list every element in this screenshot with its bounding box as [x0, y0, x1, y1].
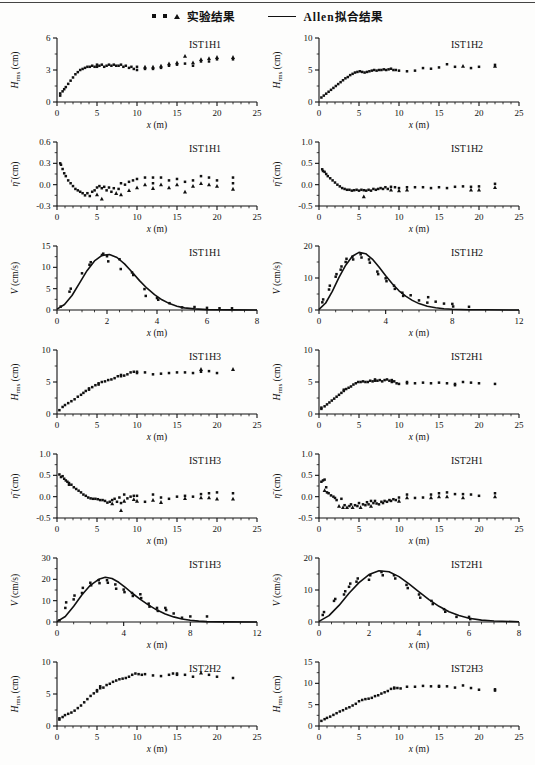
svg-text:0.0: 0.0 [39, 180, 51, 190]
y-axis-title: η̄ (cm) [10, 473, 21, 498]
svg-text:1.0: 1.0 [39, 449, 51, 459]
svg-text:5: 5 [357, 108, 362, 118]
svg-text:0.5: 0.5 [39, 470, 51, 480]
x-axis-title: x (m) [408, 224, 429, 235]
svg-text:-0.5: -0.5 [298, 513, 313, 523]
svg-text:20: 20 [213, 420, 223, 430]
svg-text:0: 0 [317, 524, 322, 534]
svg-text:5: 5 [308, 65, 313, 75]
axes [53, 350, 257, 418]
x-axis-title: x (m) [146, 640, 167, 651]
svg-text:0: 0 [55, 212, 60, 222]
svg-text:30: 30 [42, 553, 52, 563]
svg-text:3: 3 [46, 65, 51, 75]
svg-text:-0.5: -0.5 [36, 513, 51, 523]
svg-text:10: 10 [133, 212, 143, 222]
svg-text:25: 25 [253, 108, 263, 118]
x-axis-title: x (m) [408, 120, 429, 131]
panel-title: IST1H1 [189, 247, 221, 258]
svg-text:8: 8 [517, 628, 522, 638]
svg-text:0: 0 [317, 316, 322, 326]
y-axis-title: V (cm/s) [272, 574, 283, 606]
axes [53, 662, 257, 730]
scatter-points [60, 252, 234, 309]
svg-text:10: 10 [304, 273, 314, 283]
svg-text:0: 0 [55, 316, 60, 326]
svg-text:8: 8 [255, 316, 260, 326]
panel-title: IST2H1 [451, 351, 483, 362]
svg-text:0.5: 0.5 [301, 158, 313, 168]
axes [315, 454, 519, 522]
experiment-marker-square-icon [152, 14, 156, 18]
scatter-points [59, 54, 235, 97]
y-axis-title: V (cm/s) [10, 262, 21, 294]
y-axis-title: V (cm/s) [272, 262, 283, 294]
svg-text:25: 25 [253, 524, 263, 534]
y-axis-title: Hrms (cm) [10, 364, 21, 402]
axes [53, 246, 257, 314]
x-axis-title: x (m) [146, 536, 167, 547]
svg-text:0: 0 [46, 97, 51, 107]
svg-text:5: 5 [357, 524, 362, 534]
svg-text:4: 4 [417, 628, 422, 638]
svg-text:15: 15 [435, 732, 445, 742]
svg-text:-0.3: -0.3 [36, 201, 51, 211]
y-axis-title: η̄ (cm) [10, 161, 21, 186]
svg-text:8: 8 [450, 316, 455, 326]
svg-text:10: 10 [42, 657, 52, 667]
axis-labels: 05101520250510x (m)Hrms (cm)IST1H3 [10, 345, 262, 443]
axes [53, 38, 257, 106]
svg-text:12: 12 [515, 316, 524, 326]
svg-text:0.0: 0.0 [301, 492, 313, 502]
svg-text:20: 20 [213, 732, 223, 742]
svg-text:15: 15 [42, 241, 52, 251]
fit-curve [57, 255, 257, 311]
svg-text:20: 20 [304, 553, 314, 563]
figure-page: 实验结果 Allen拟合结果 0510152025036x (m)Hrms (c… [0, 0, 535, 765]
panel-IST2H1-Hrms: 05101520250510x (m)Hrms (cm)IST2H1 [269, 342, 528, 446]
svg-text:4: 4 [155, 316, 160, 326]
svg-text:15: 15 [435, 420, 445, 430]
panel-IST2H1-V: 0246801020x (m)V (cm/s)IST2H1 [269, 550, 528, 654]
scatter-points [320, 684, 496, 722]
page-top-rule [0, 2, 535, 3]
panel-IST2H1-eta: 0510152025-0.50.00.51.0x (m)η̄ (cm)IST2H… [269, 446, 528, 550]
svg-text:4: 4 [121, 628, 126, 638]
panel-title: IST2H1 [451, 559, 483, 570]
y-axis-title: η̄ (cm) [272, 161, 283, 186]
y-axis-title: Hrms (cm) [272, 52, 283, 90]
svg-text:20: 20 [475, 524, 485, 534]
panel-title: IST1H3 [189, 455, 221, 466]
svg-text:20: 20 [42, 574, 52, 584]
svg-text:6: 6 [205, 316, 210, 326]
figure-grid: 0510152025036x (m)Hrms (cm)IST1H10510152… [7, 30, 528, 758]
svg-text:20: 20 [213, 524, 223, 534]
svg-text:25: 25 [515, 420, 525, 430]
panel-IST1H2-V: 0481201020x (m)V (cm/s)IST1H2 [269, 238, 528, 342]
svg-text:0: 0 [317, 420, 322, 430]
scatter-points [321, 253, 470, 308]
panel-title: IST1H3 [189, 559, 221, 570]
svg-text:10: 10 [395, 108, 405, 118]
svg-text:1.0: 1.0 [301, 449, 313, 459]
svg-text:10: 10 [133, 108, 143, 118]
axis-labels: 05101520250510x (m)Hrms (cm)IST1H2 [272, 33, 524, 131]
scatter-points [322, 571, 472, 621]
svg-text:25: 25 [253, 732, 263, 742]
svg-text:0.5: 0.5 [301, 470, 313, 480]
x-axis-title: x (m) [146, 120, 167, 131]
svg-text:0.3: 0.3 [39, 158, 51, 168]
svg-text:15: 15 [173, 732, 183, 742]
svg-text:0: 0 [55, 108, 60, 118]
x-axis-title: x (m) [146, 432, 167, 443]
svg-text:15: 15 [173, 108, 183, 118]
svg-text:20: 20 [475, 420, 485, 430]
axis-labels: 02468051015x (m)V (cm/s)IST1H1 [10, 241, 260, 339]
panel-IST1H1-eta: 0510152025-0.30.00.30.6x (m)η̄ (cm)IST1H… [7, 134, 266, 238]
svg-text:0: 0 [317, 732, 322, 742]
svg-text:15: 15 [173, 212, 183, 222]
x-axis-title: x (m) [408, 640, 429, 651]
panel-title: IST2H3 [451, 663, 483, 674]
svg-text:5: 5 [95, 108, 100, 118]
svg-text:0.0: 0.0 [39, 492, 51, 502]
